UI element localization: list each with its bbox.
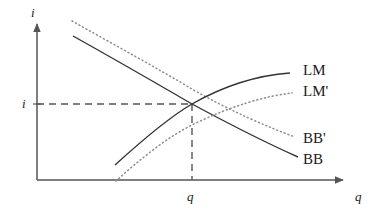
- x-axis-tick-label: q: [187, 190, 194, 203]
- curve-lm: [115, 73, 290, 165]
- y-axis-tick-label: i: [22, 97, 26, 110]
- curve-label-bb-prime: BB': [303, 131, 326, 146]
- curve-bb-prime: [72, 21, 295, 137]
- curve-label-lm: LM: [303, 63, 326, 78]
- curve-label-lm-prime: LM': [303, 84, 328, 99]
- x-axis-label: q: [355, 190, 362, 203]
- curve-lm-prime: [116, 93, 292, 181]
- curve-bb: [73, 36, 298, 157]
- curve-label-bb: BB: [303, 152, 323, 167]
- y-axis-label: i: [31, 6, 35, 19]
- plot-canvas: [0, 0, 378, 217]
- bb-lm-diagram: i q i q LM LM' BB' BB: [0, 0, 378, 217]
